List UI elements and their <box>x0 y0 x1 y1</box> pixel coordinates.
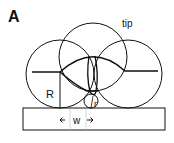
tip-geometry-diagram: A R r tip w <box>0 0 174 143</box>
panel-label: A <box>8 8 20 25</box>
radius-r-line <box>91 96 93 108</box>
radius-r-label: r <box>94 99 97 109</box>
width-w-label: w <box>72 115 81 126</box>
tip-apex-lines <box>88 56 98 95</box>
tip-label: tip <box>122 18 133 29</box>
radius-R-label: R <box>46 88 54 100</box>
right-circle <box>94 40 162 108</box>
substrate-rect <box>23 108 165 130</box>
